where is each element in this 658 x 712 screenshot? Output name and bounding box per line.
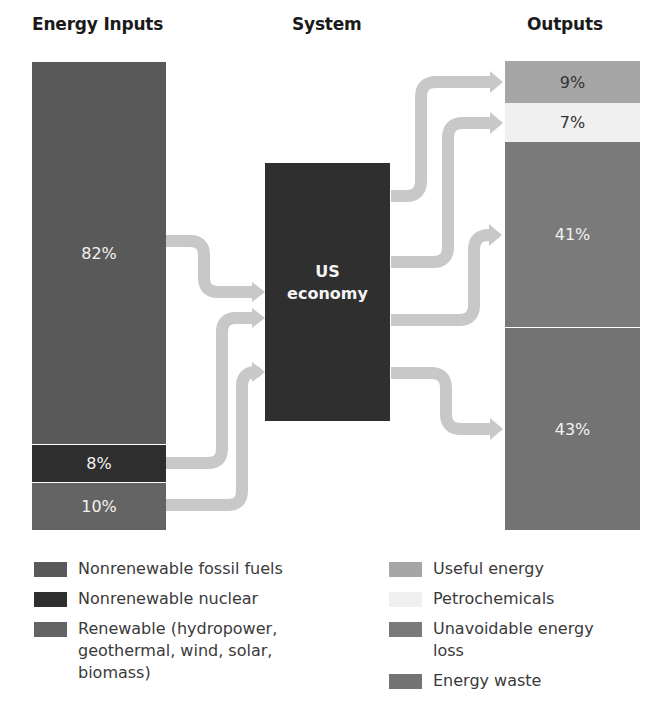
output-petrochemicals-value: 7% — [560, 113, 585, 132]
input-fossil-value: 82% — [81, 244, 117, 263]
legend-label: Useful energy — [433, 559, 544, 578]
swatch-nuclear — [34, 592, 67, 607]
swatch-unavoidable-loss — [389, 622, 422, 637]
legend-item-nuclear: Nonrenewable nuclear — [34, 588, 334, 610]
system-label: US economy — [287, 261, 368, 305]
legend-item-petrochemicals: Petrochemicals — [389, 588, 649, 610]
arrow-fossil-to-economy — [166, 241, 252, 292]
legend-item-waste: Energy waste — [389, 670, 649, 692]
legend-outputs: Useful energy Petrochemicals Unavoidable… — [389, 558, 649, 700]
system-box-us-economy: US economy — [265, 163, 390, 421]
legend-label: Nonrenewable fossil fuels — [78, 559, 283, 578]
swatch-waste — [389, 674, 422, 689]
output-segment-useful: 9% — [505, 61, 640, 103]
legend-label: Renewable (hydropower, geothermal, wind,… — [78, 619, 277, 682]
input-nuclear-value: 8% — [86, 454, 111, 473]
arrow-economy-to-useful — [391, 82, 490, 196]
legend-inputs: Nonrenewable fossil fuels Nonrenewable n… — [34, 558, 334, 692]
arrow-economy-to-loss — [391, 235, 490, 320]
legend-item-unavoidable-loss: Unavoidable energy loss — [389, 618, 623, 662]
output-loss-value: 41% — [555, 225, 591, 244]
output-segment-waste: 43% — [505, 328, 640, 530]
arrow-economy-to-waste — [391, 373, 490, 429]
output-segment-unavoidable-loss: 41% — [505, 142, 640, 327]
swatch-renewable — [34, 622, 67, 637]
input-segment-renewable: 10% — [32, 483, 166, 530]
legend-label: Energy waste — [433, 671, 541, 690]
input-renewable-value: 10% — [81, 497, 117, 516]
legend-item-fossil: Nonrenewable fossil fuels — [34, 558, 334, 580]
legend-item-renewable: Renewable (hydropower, geothermal, wind,… — [34, 618, 308, 684]
arrow-renewable-to-economy — [166, 372, 256, 505]
input-segment-nuclear: 8% — [32, 445, 166, 482]
legend-label: Petrochemicals — [433, 589, 554, 608]
legend-label: Nonrenewable nuclear — [78, 589, 258, 608]
legend-label: Unavoidable energy loss — [433, 619, 594, 660]
legend-item-useful: Useful energy — [389, 558, 649, 580]
output-segment-petrochemicals: 7% — [505, 103, 640, 142]
system-label-line1: US — [287, 261, 368, 283]
swatch-useful — [389, 562, 422, 577]
swatch-petrochemicals — [389, 592, 422, 607]
output-useful-value: 9% — [560, 73, 585, 92]
input-segment-fossil: 82% — [32, 62, 166, 444]
output-waste-value: 43% — [555, 420, 591, 439]
swatch-fossil — [34, 562, 67, 577]
system-label-line2: economy — [287, 283, 368, 305]
